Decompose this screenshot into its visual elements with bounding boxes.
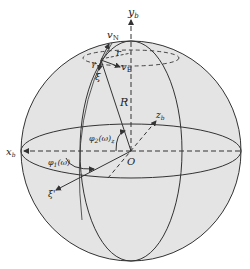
gamma-label: γ (91, 59, 96, 68)
radius-label: R (119, 96, 128, 109)
v-north-label: vN (107, 29, 119, 42)
sphere-coordinate-diagram: yb vN r vE γ ξ R zb φ2(ω)z xb O φ1(ω) ξ' (0, 0, 250, 269)
phi1-label: φ1(ω) (48, 158, 70, 168)
diagram-canvas: yb vN r vE γ ξ R zb φ2(ω)z xb O φ1(ω) ξ' (0, 0, 250, 269)
xi-prime-label: ξ' (48, 189, 55, 199)
y-axis-label: yb (127, 6, 139, 20)
origin-label: O (127, 156, 135, 167)
x-axis-label: xb (6, 146, 16, 158)
xi-label: ξ (95, 71, 101, 82)
